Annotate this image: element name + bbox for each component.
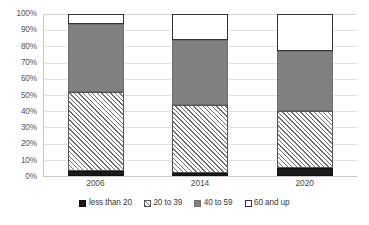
- bar-segment-less-than-20[interactable]: [172, 173, 228, 176]
- x-tick-label-2020: 2020: [252, 179, 357, 187]
- white-outline-swatch-icon: [245, 200, 252, 207]
- bar-column-2020: [253, 14, 357, 176]
- stacked-bar[interactable]: [172, 14, 228, 176]
- plot-area: [43, 14, 357, 177]
- bar-segment-40-to-59[interactable]: [277, 51, 333, 111]
- y-tick-label: 70%: [21, 59, 37, 67]
- bar-column-2014: [148, 14, 252, 176]
- y-tick-label: 100%: [16, 10, 37, 18]
- bar-segment-60-and-up[interactable]: [68, 14, 124, 24]
- stacked-bar-chart: 100% 90% 80% 70% 60% 50% 40% 30% 20% 10%…: [0, 0, 369, 225]
- bar-segment-less-than-20[interactable]: [277, 168, 333, 176]
- bar-segment-60-and-up[interactable]: [277, 14, 333, 51]
- stacked-bar[interactable]: [277, 14, 333, 176]
- x-tick-label-2014: 2014: [148, 179, 253, 187]
- chart-legend: less than 20 20 to 39 40 to 59 60 and up: [0, 199, 369, 207]
- plot-wrapper: 100% 90% 80% 70% 60% 50% 40% 30% 20% 10%…: [0, 0, 369, 192]
- bar-segment-20-to-39[interactable]: [68, 92, 124, 171]
- legend-label: less than 20: [89, 199, 132, 207]
- bar-segment-20-to-39[interactable]: [277, 111, 333, 168]
- bar-segment-40-to-59[interactable]: [68, 24, 124, 92]
- bars-layer: [44, 14, 357, 176]
- solid-gray-swatch-icon: [194, 200, 201, 207]
- y-tick-label: 80%: [21, 42, 37, 50]
- y-tick-label: 30%: [21, 124, 37, 132]
- y-tick-label: 60%: [21, 75, 37, 83]
- legend-item-20-to-39[interactable]: 20 to 39: [144, 199, 182, 207]
- y-tick-label: 40%: [21, 108, 37, 116]
- y-tick-label: 20%: [21, 140, 37, 148]
- y-tick-label: 0%: [25, 173, 37, 181]
- bar-segment-20-to-39[interactable]: [172, 105, 228, 173]
- x-axis: 2006 2014 2020: [43, 179, 357, 187]
- y-tick-label: 90%: [21, 26, 37, 34]
- stacked-bar[interactable]: [68, 14, 124, 176]
- bar-column-2006: [44, 14, 148, 176]
- bar-segment-60-and-up[interactable]: [172, 14, 228, 40]
- legend-item-less-than-20[interactable]: less than 20: [79, 199, 131, 207]
- y-tick-label: 10%: [21, 157, 37, 165]
- y-tick-label: 50%: [21, 91, 37, 99]
- hatch-swatch-icon: [144, 200, 151, 207]
- legend-item-40-to-59[interactable]: 40 to 59: [194, 199, 232, 207]
- bar-segment-40-to-59[interactable]: [172, 40, 228, 105]
- solid-black-swatch-icon: [79, 200, 86, 207]
- x-tick-label-2006: 2006: [43, 179, 148, 187]
- legend-item-60-and-up[interactable]: 60 and up: [245, 199, 290, 207]
- y-axis: 100% 90% 80% 70% 60% 50% 40% 30% 20% 10%…: [0, 14, 40, 177]
- legend-label: 60 and up: [254, 199, 290, 207]
- legend-label: 40 to 59: [204, 199, 233, 207]
- bar-segment-less-than-20[interactable]: [68, 171, 124, 176]
- legend-label: 20 to 39: [153, 199, 182, 207]
